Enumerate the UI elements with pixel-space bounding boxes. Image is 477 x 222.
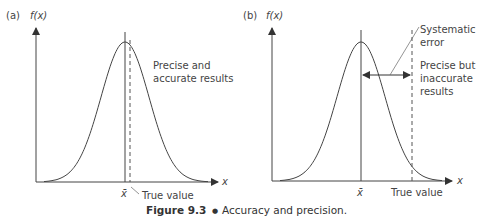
panel-b-label: (b) [243,10,257,21]
panel-b-systematic-error-line-2: error [420,37,445,48]
panel-b-mean-label: x̄ [356,187,363,198]
panel-a-mean-label: x̄ [120,188,127,199]
caption-number: Figure 9.3 [146,204,206,216]
panel-a-true-value-label: True value [141,190,194,201]
panel-a-label: (a) [6,10,20,21]
panel-b-x-axis-label: x [456,175,463,186]
panel-b-annotation-line-3: results [420,86,454,97]
panel-b-true-value-label: True value [390,187,443,198]
caption-bullet: ● [212,207,218,215]
panel-b-y-axis-label: f(x) [266,10,283,21]
panel-b-systematic-error-line-1: Systematic [420,24,476,35]
figure-diagram: (a) f(x) x x̄ True value Precise and acc… [0,0,477,222]
panel-a-y-axis-label: f(x) [30,10,47,21]
panel-b: (b) f(x) x Systematic error Precise but … [243,10,476,198]
panel-a: (a) f(x) x x̄ True value Precise and acc… [6,10,233,201]
panel-a-x-axis-label: x [221,176,228,187]
panel-b-annotation-line-2: inaccurate [420,73,473,84]
panel-a-annotation-line-1: Precise and [153,60,211,71]
panel-b-annotation-line-1: Precise but [420,60,475,71]
panel-b-systematic-error-leader [390,27,419,75]
figure-caption: Figure 9.3 ● Accuracy and precision. [146,204,347,216]
panel-a-annotation-line-2: accurate results [153,73,233,84]
panel-a-true-value-leader [131,187,139,194]
caption-text: Accuracy and precision. [222,204,347,216]
